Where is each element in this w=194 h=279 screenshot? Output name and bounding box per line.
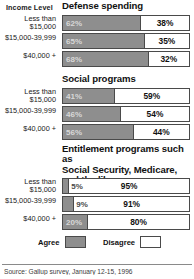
legend-swatch-agree [65,236,86,248]
bar-track: 41% 59% [62,88,190,104]
row-category-line2: $15,000 [0,186,56,194]
income-level-header: Income Level [6,3,62,12]
row-category-label: Less than $15,000 [0,15,58,31]
bar-row: $15,000-39,999 9% 91% [0,196,194,213]
bar-value-disagree: 54% [147,110,164,119]
legend-item-agree: Agree [38,236,86,248]
bar-track: 65% 35% [62,33,190,49]
row-category-label: $40,000 + [0,214,58,223]
bar-track: 20% 80% [62,214,190,230]
bar-value-agree: 9% [76,200,88,209]
bar-value-agree: 20% [66,218,82,227]
legend-item-disagree: Disagree [103,236,161,248]
bar-row: $40,000 + 68% 32% [0,51,194,68]
row-category-label: $40,000 + [0,124,58,133]
panel-title-social-programs: Social programs [62,74,136,84]
bar-track: 68% 32% [62,51,190,67]
row-category-label: $15,000-39,999 [0,33,58,42]
legend-label-disagree: Disagree [103,238,135,247]
bar-value-agree: 68% [66,55,82,64]
bar-value-agree: 65% [66,37,82,46]
bar-row: $40,000 + 56% 44% [0,124,194,141]
chart-figure: Income Level Defense spending Less than … [0,0,194,279]
row-category-label: Less than $15,000 [0,88,58,104]
panel-social-programs: Less than $15,000 41% 59% $15,000-39,999… [0,88,194,142]
bar-value-agree: 46% [66,110,82,119]
bar-value-disagree: 80% [130,218,147,227]
bar-value-agree: 56% [66,128,82,137]
bar-row: Less than $15,000 41% 59% [0,88,194,105]
bar-value-disagree: 95% [121,182,138,191]
row-category-label: Less than $15,000 [0,178,58,194]
bar-row: Less than $15,000 5% 95% [0,178,194,195]
bar-row: $40,000 + 20% 80% [0,214,194,231]
chart-legend: Agree Disagree [0,236,194,256]
row-category-label: $40,000 + [0,51,58,60]
source-caption: Source: Gallup survey, January 12-15, 19… [4,268,194,275]
bar-value-disagree: 35% [159,37,176,46]
row-category-line2: $15,000 [0,23,56,31]
bar-row: $15,000-39,999 65% 35% [0,33,194,50]
bar-track: 5% 95% [62,178,190,194]
legend-swatch-disagree [140,236,161,248]
panel-title-line1: Entitlement programs such as [62,144,192,165]
bar-value-agree: 41% [66,92,82,101]
bar-track: 46% 54% [62,106,190,122]
bar-value-disagree: 32% [160,55,177,64]
panel-entitlement-programs: Less than $15,000 5% 95% $15,000-39,999 … [0,178,194,232]
panel-title-defense-spending: Defense spending [62,1,143,11]
bar-track: 56% 44% [62,124,190,140]
bar-value-agree: 5% [71,182,83,191]
row-category-label: $15,000-39,999 [0,106,58,115]
bar-value-disagree: 59% [143,92,160,101]
bar-row: Less than $15,000 62% 38% [0,15,194,32]
footer-divider [2,264,192,265]
bar-value-agree: 62% [66,19,82,28]
bar-track: 9% 91% [62,196,190,212]
row-category-line2: $15,000 [0,96,56,104]
panel-defense-spending: Less than $15,000 62% 38% $15,000-39,999… [0,15,194,69]
bar-value-disagree: 91% [123,200,140,209]
bar-value-disagree: 44% [153,128,170,137]
bar-row: $15,000-39,999 46% 54% [0,106,194,123]
bar-fill-agree [63,197,74,211]
bar-track: 62% 38% [62,15,190,31]
row-category-label: $15,000-39,999 [0,196,58,205]
bar-value-disagree: 38% [157,19,174,28]
bar-fill-agree [63,179,69,193]
legend-label-agree: Agree [38,238,60,247]
